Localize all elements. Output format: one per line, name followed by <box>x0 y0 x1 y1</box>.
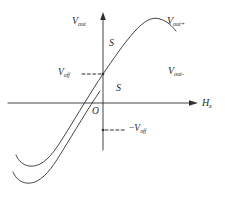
x-axis-arrowhead <box>189 100 198 106</box>
curve-v-out-minus <box>13 91 100 183</box>
y-axis-label-sub: out <box>78 20 86 27</box>
x-axis-label: Hz <box>202 98 212 108</box>
origin-label: O <box>92 107 99 117</box>
y-axis-label: Vout <box>72 16 86 26</box>
tick-v-off-main: V <box>58 67 64 77</box>
curve-label-v-out-minus: Vout- <box>168 66 184 76</box>
tick-v-off-sub: off <box>64 72 70 78</box>
point-v-off <box>102 73 105 76</box>
x-axis-label-sub: z <box>209 102 211 109</box>
segment-label-s-upper: S <box>109 38 114 48</box>
plot-canvas <box>0 0 225 205</box>
curve-v-out-plus <box>16 18 176 166</box>
segment-label-s-lower: S <box>116 83 121 93</box>
curve-v-out-plus-sub: out+ <box>173 20 185 27</box>
tick-label-v-off: Voff <box>58 68 70 78</box>
curve-v-out-minus-sub: out- <box>174 70 184 77</box>
figure-container: Vout Hz O Voff −Voff Vout+ Vout- S S <box>0 0 225 205</box>
tick-label-neg-v-off: −Voff <box>129 124 146 134</box>
tick-neg-v-off-sub: off <box>140 128 146 134</box>
curve-label-v-out-plus: Vout+ <box>167 16 185 26</box>
point-neg-v-off <box>102 129 105 132</box>
y-axis-arrowhead <box>100 12 106 20</box>
